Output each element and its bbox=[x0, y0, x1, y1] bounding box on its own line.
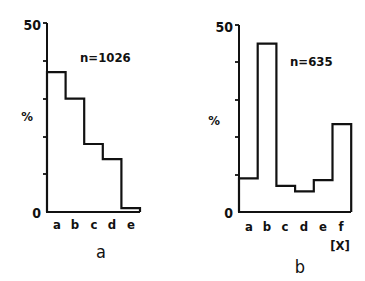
panel-b-ylabel: % bbox=[208, 113, 220, 128]
figure: 50 0 n=1026 % a b c d e a 50 0 n=635 % a… bbox=[0, 0, 365, 281]
panel-b-label: b bbox=[295, 256, 305, 277]
panel-a-xtick: c bbox=[91, 217, 98, 232]
panel-a-chart: 50 0 n=1026 % a b c d e a bbox=[21, 17, 140, 262]
panel-a-histogram bbox=[47, 72, 140, 212]
panel-b-ytick-zero: 0 bbox=[224, 205, 233, 221]
panel-b-ytick-top: 50 bbox=[215, 19, 233, 35]
panel-b-xtick: c bbox=[282, 219, 289, 234]
panel-a-ylabel: % bbox=[21, 109, 33, 124]
panel-b-xtick: d bbox=[300, 219, 308, 234]
panel-a-xtick: a bbox=[53, 217, 61, 232]
panel-a-xtick-labels: a b c d e bbox=[53, 217, 135, 232]
panel-a-ytick-top: 50 bbox=[23, 17, 41, 33]
panel-b-xtick: f bbox=[338, 219, 344, 234]
panel-a-xtick: e bbox=[127, 217, 135, 232]
panel-b-xtick: a bbox=[245, 219, 253, 234]
panel-b-chart: 50 0 n=635 % a b c d e f [X] b bbox=[208, 19, 351, 277]
panel-b-sample-size: n=635 bbox=[290, 54, 333, 69]
panel-b-xtick: e bbox=[319, 219, 327, 234]
panel-a-xtick: d bbox=[108, 217, 116, 232]
panel-b-xtick: b bbox=[263, 219, 271, 234]
panel-b-xunit: [X] bbox=[330, 238, 350, 253]
panel-a-xtick: b bbox=[71, 217, 79, 232]
panel-a-ytick-zero: 0 bbox=[32, 205, 41, 221]
panel-a-label: a bbox=[96, 241, 106, 262]
panel-a-sample-size: n=1026 bbox=[80, 50, 131, 65]
panel-b-xtick-labels: a b c d e f bbox=[245, 219, 344, 234]
